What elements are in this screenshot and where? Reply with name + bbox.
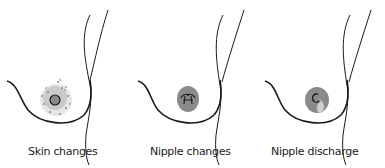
label-nipple-discharge: Nipple discharge — [271, 145, 358, 158]
label-skin-changes: Skin changes — [28, 145, 98, 158]
breast-outline-discharge-icon — [255, 0, 385, 168]
breast-outline-nipple-icon — [128, 0, 258, 168]
panel-skin-changes: Skin changes — [0, 0, 130, 168]
nipple-discharge-icon — [305, 87, 329, 113]
panel-nipple-changes: Nipple changes — [128, 0, 258, 168]
panel-nipple-discharge: Nipple discharge — [255, 0, 385, 168]
nipple-changes-icon — [177, 86, 199, 112]
label-nipple-changes: Nipple changes — [150, 145, 231, 158]
skin-changes-icon — [40, 79, 72, 116]
breast-outline-skin-icon — [0, 0, 130, 168]
